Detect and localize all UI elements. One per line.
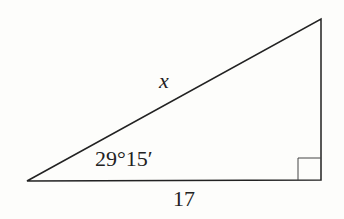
right-angle-marker bbox=[298, 158, 321, 180]
angle-label: 29°15′ bbox=[95, 148, 153, 170]
right-triangle bbox=[27, 19, 321, 181]
adjacent-side-label: 17 bbox=[173, 188, 195, 210]
hypotenuse-label: x bbox=[159, 70, 169, 92]
triangle-diagram bbox=[0, 0, 344, 219]
